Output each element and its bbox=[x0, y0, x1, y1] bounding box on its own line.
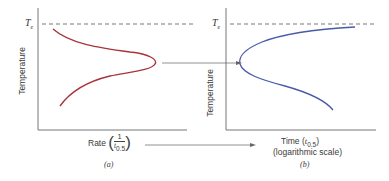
transform-arrow bbox=[162, 61, 242, 65]
panel-b-x-axis-label-line2: (logarithmic scale) bbox=[273, 147, 342, 157]
panel-b-x-axis-label-line1: Time (t0.5) bbox=[281, 136, 319, 148]
panel-a-caption: (a) bbox=[104, 160, 113, 169]
panel-b-axes bbox=[226, 8, 376, 130]
panel-b-y-axis-label: Temperature bbox=[205, 65, 215, 121]
rate-fraction: 1t0.5 bbox=[114, 133, 125, 153]
panel-a-axes bbox=[38, 8, 187, 130]
rate-text: Rate bbox=[88, 138, 106, 148]
panel-a-x-axis-label: Rate (1t0.5) bbox=[88, 133, 131, 153]
panel-a-rate-curve bbox=[53, 29, 156, 106]
fraction-denominator: t0.5 bbox=[114, 142, 125, 153]
panel-b-caption: (b) bbox=[300, 160, 309, 169]
close-paren: ) bbox=[125, 133, 131, 152]
panel-a-y-axis-label: Temperature bbox=[17, 43, 27, 99]
panel-b-te-label: Te bbox=[212, 17, 220, 30]
panel-a-te-label: Te bbox=[25, 17, 33, 30]
panel-b-time-curve bbox=[240, 27, 355, 110]
bottom-arrow bbox=[145, 143, 256, 147]
